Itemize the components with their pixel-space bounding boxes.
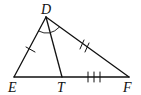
label-d: D (40, 2, 51, 17)
segment-de (14, 17, 46, 77)
label-t: T (57, 80, 66, 95)
triangle-diagram: D E T F (0, 0, 141, 95)
label-f: F (122, 80, 132, 95)
segment-dt (46, 17, 62, 77)
label-e: E (7, 80, 17, 95)
